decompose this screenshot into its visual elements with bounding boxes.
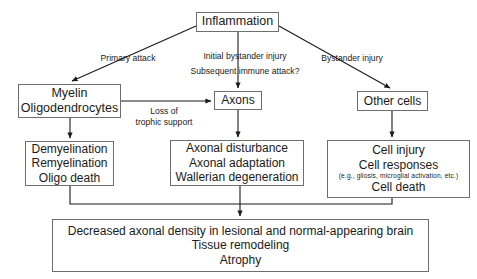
edge-label-primary-attack: Primary attack [86,53,170,63]
edge-demyelination-to-bus [70,186,240,204]
edge-label-loss-of: Loss of [150,106,178,116]
node-outcome-line3: Atrophy [220,253,261,268]
flowchart-diagram: Inflammation Myelin Oligodendrocytes Axo… [0,0,477,279]
node-outcome-line2: Tissue remodeling [192,238,290,253]
node-demyelination-line3: Oligo death [39,171,100,186]
node-final-outcome[interactable]: Decreased axonal density in lesional and… [52,219,429,272]
node-axons[interactable]: Axons [214,91,262,110]
node-inflammation-label: Inflammation [202,14,274,29]
edge-label-bystander-injury: Bystander injury [312,53,392,63]
node-myelin-oligodendrocytes[interactable]: Myelin Oligodendrocytes [18,84,121,118]
edge-label-subsequent-immune-attack: Subsequent immune attack? [170,66,320,76]
node-outcome-line1: Decreased axonal density in lesional and… [68,224,414,239]
edge-label-initial-bystander-injury: Initial bystander injury [180,51,310,61]
node-cell-injury-line2: Cell responses [359,158,438,173]
node-demyelination-outcomes[interactable]: Demyelination Remyelination Oligo death [25,141,114,186]
node-other-cells-label: Other cells [364,94,421,109]
node-cell-injury-outcomes[interactable]: Cell injury Cell responses (e.g., gliosi… [327,140,470,198]
node-cell-injury-line1: Cell injury [372,143,425,158]
node-cell-injury-note: (e.g., gliosis, microglial activation, e… [339,172,458,180]
node-axonal-line3: Wallerian degeneration [176,170,299,185]
node-other-cells[interactable]: Other cells [357,91,428,111]
node-cell-injury-line3: Cell death [371,180,425,195]
edge-label-loss-of-trophic-support: Loss of trophic support [121,106,207,127]
node-myelin-line1: Myelin [51,86,87,101]
node-inflammation[interactable]: Inflammation [196,12,279,32]
node-demyelination-line2: Remyelination [31,156,107,171]
node-axonal-line1: Axonal disturbance [186,141,288,156]
node-myelin-line2: Oligodendrocytes [21,101,118,116]
edge-label-trophic-support: trophic support [136,117,193,127]
node-axonal-outcomes[interactable]: Axonal disturbance Axonal adaptation Wal… [170,140,304,186]
node-axonal-line2: Axonal adaptation [189,156,285,171]
edge-cell-injury-to-bus [240,198,392,204]
node-axons-label: Axons [221,93,254,108]
node-demyelination-line1: Demyelination [31,142,107,157]
